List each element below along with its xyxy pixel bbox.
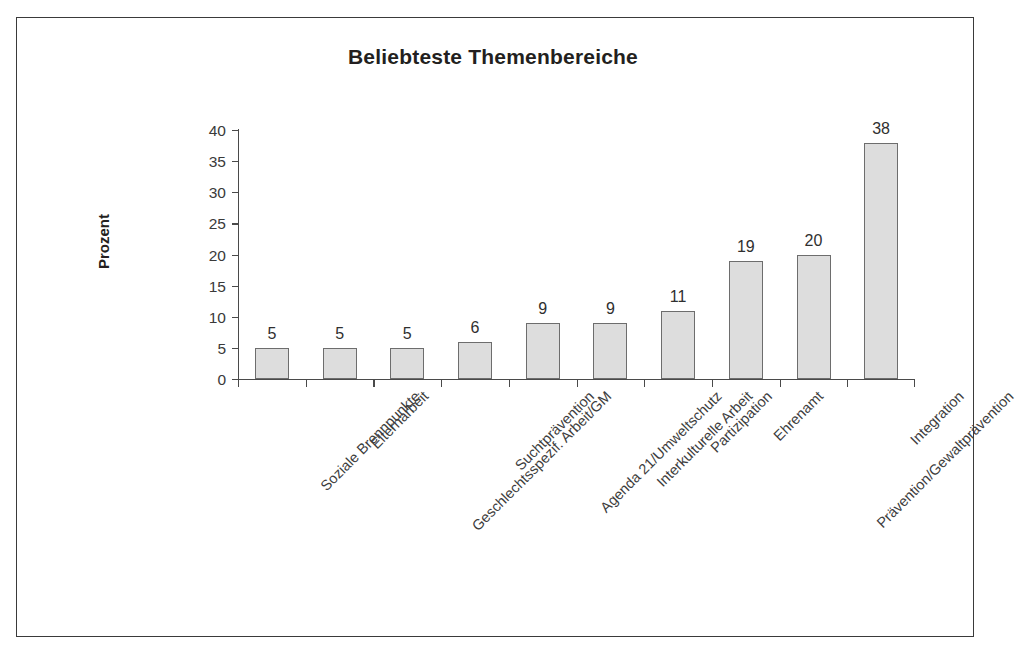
bar [526,323,560,379]
y-axis-tick-label: 5 [182,341,226,357]
y-axis-label-wrapper: Prozent [83,185,123,305]
y-axis-tick [232,348,238,349]
x-axis-tick [914,380,915,387]
bar [458,342,492,379]
y-axis-tick-label: 20 [182,248,226,264]
y-axis-tick [232,317,238,318]
y-axis-line [238,129,239,380]
y-axis-tick-label: 25 [182,216,226,232]
x-axis-tick [712,380,713,387]
y-axis-tick [232,192,238,193]
bar-value-label: 19 [716,239,776,255]
x-axis-tick [238,380,239,387]
bar [729,261,763,379]
bar-value-label: 38 [851,121,911,137]
bar-value-label: 6 [445,320,505,336]
y-axis-tick-label: 35 [182,154,226,170]
y-axis-tick [232,223,238,224]
x-axis-tick [306,380,307,387]
bar [661,311,695,380]
plot-area: 0510152025303540 55569911192038 [238,130,915,379]
bar [864,143,898,380]
y-axis-tick [232,161,238,162]
bar [255,348,289,379]
y-axis-tick-label: 0 [182,372,226,388]
bar [323,348,357,379]
x-axis-tick [441,380,442,387]
bar-value-label: 9 [513,301,573,317]
bar-value-label: 9 [580,301,640,317]
bar-value-label: 11 [648,289,708,305]
y-axis-tick-label: 40 [182,123,226,139]
x-axis-tick [847,380,848,387]
y-axis-tick [232,255,238,256]
bar-value-label: 5 [242,326,302,342]
bar-value-label: 5 [377,326,437,342]
chart-title: Beliebteste Themenbereiche [0,45,986,69]
y-axis-tick-label: 30 [182,185,226,201]
x-axis-tick [644,380,645,387]
y-axis-tick [232,130,238,131]
y-axis-tick-label: 15 [182,279,226,295]
x-axis-tick [780,380,781,387]
x-axis-tick [509,380,510,387]
bar-value-label: 20 [784,233,844,249]
y-axis-tick [232,286,238,287]
bar [797,255,831,380]
y-axis-tick-label: 10 [182,310,226,326]
x-axis-tick [373,380,374,387]
bar [593,323,627,379]
y-axis-label: Prozent [95,194,112,290]
x-axis-tick [577,380,578,387]
bar-value-label: 5 [310,326,370,342]
bar [390,348,424,379]
